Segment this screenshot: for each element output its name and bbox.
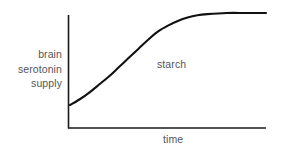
chart-figure: brain serotonin supply starch time: [0, 0, 284, 152]
y-axis-label-line-3: supply: [0, 76, 62, 91]
y-axis-label-line-1: brain: [0, 47, 62, 62]
y-axis-label-line-2: serotonin: [0, 62, 62, 77]
y-axis-label: brain serotonin supply: [0, 47, 62, 91]
x-axis-label: time: [163, 133, 183, 145]
curve-annotation-starch: starch: [157, 58, 186, 70]
